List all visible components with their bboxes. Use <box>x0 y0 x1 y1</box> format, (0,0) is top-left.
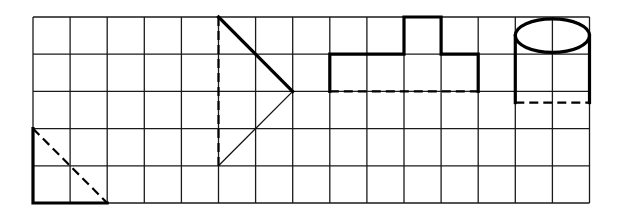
grid-lines <box>33 17 590 203</box>
grid-diagram <box>0 0 621 216</box>
shapes-layer <box>33 17 590 203</box>
